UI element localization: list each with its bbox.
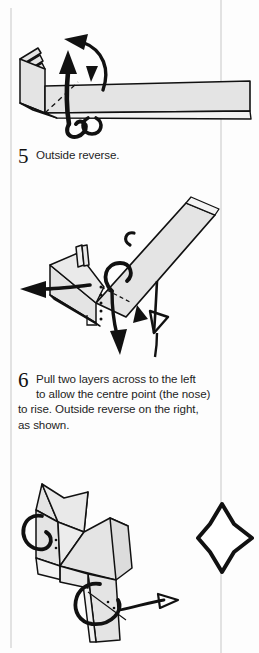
step-5-line-1: Outside reverse. xyxy=(18,147,214,162)
step-6: 6 Pull two layers across to the left to … xyxy=(18,371,214,432)
figure-step-5 xyxy=(0,14,259,144)
step-5-text: Outside reverse. xyxy=(18,147,214,162)
figure-step-6 xyxy=(0,183,259,368)
figure-result xyxy=(0,462,259,652)
step-6-line-1: Pull two layers across to the left xyxy=(18,371,214,386)
step-5: 5 Outside reverse. xyxy=(18,147,214,167)
step-6-number: 6 xyxy=(18,370,29,391)
step-6-text: Pull two layers across to the left to al… xyxy=(18,371,214,432)
page-surface: 5 Outside reverse. xyxy=(0,0,259,653)
step-6-line-3: to rise. Outside reverse on the right, xyxy=(18,401,214,416)
step-6-line-4: as shown. xyxy=(18,417,214,432)
step-6-line-2: to allow the centre point (the nose) xyxy=(18,386,214,401)
step-5-number: 5 xyxy=(18,146,29,167)
four-pointed-star-icon xyxy=(198,504,252,572)
paper-strip-top xyxy=(45,81,250,113)
